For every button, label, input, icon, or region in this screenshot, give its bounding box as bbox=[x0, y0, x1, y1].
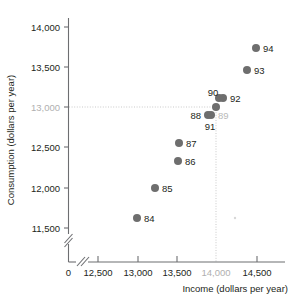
y-axis-title: Consumption (dollars per year) bbox=[5, 75, 16, 205]
y-tick-label-11500: 11,500 bbox=[32, 223, 60, 234]
x-tick-label-12500: 12,500 bbox=[83, 267, 112, 278]
chart-canvas: 14,000 13,500 13,000 12,500 12,000 11,50… bbox=[0, 0, 295, 306]
data-point-label-93: 93 bbox=[254, 65, 265, 76]
x-tick-label-13500: 13,500 bbox=[162, 267, 191, 278]
y-tick-label-13500: 13,500 bbox=[31, 62, 60, 73]
data-point-85 bbox=[151, 184, 159, 192]
data-point-86 bbox=[174, 157, 182, 165]
y-tick-label-12000: 12,000 bbox=[31, 183, 60, 194]
data-point-89 bbox=[207, 111, 215, 119]
x-tick-label-14000: 14,000 bbox=[201, 267, 230, 278]
data-point-label-91: 91 bbox=[205, 121, 216, 132]
data-point-92 bbox=[219, 94, 227, 102]
x-axis-break-mark-1 bbox=[77, 257, 85, 266]
data-points bbox=[133, 44, 260, 222]
x-tick-label-13000: 13,000 bbox=[123, 267, 152, 278]
scatter-chart: 14,000 13,500 13,000 12,500 12,000 11,50… bbox=[0, 0, 295, 306]
data-point-84 bbox=[133, 214, 141, 222]
data-point-87 bbox=[175, 139, 183, 147]
data-point-93 bbox=[243, 66, 251, 74]
data-point-label-92: 92 bbox=[230, 93, 241, 104]
y-tick-label-13000: 13,000 bbox=[31, 102, 60, 113]
data-point-label-87: 87 bbox=[186, 138, 197, 149]
data-point-label-86: 86 bbox=[185, 156, 196, 167]
data-point-label-88: 88 bbox=[190, 110, 201, 121]
x-axis-title: Income (dollars per year) bbox=[182, 283, 288, 294]
y-axis: 14,000 13,500 13,000 12,500 12,000 11,50… bbox=[31, 18, 73, 262]
data-point-label-84: 84 bbox=[144, 213, 155, 224]
x-axis-break-mark-2 bbox=[81, 257, 89, 266]
data-point-label-89: 89 bbox=[218, 110, 229, 121]
y-tick-label-12500: 12,500 bbox=[31, 142, 60, 153]
y-tick-label-14000: 14,000 bbox=[31, 22, 60, 33]
y-axis-break-mark-1 bbox=[65, 234, 73, 243]
reference-lines bbox=[69, 107, 216, 262]
data-point-label-85: 85 bbox=[162, 183, 173, 194]
x-tick-label-14500: 14,500 bbox=[242, 267, 271, 278]
data-point-label-94: 94 bbox=[263, 43, 274, 54]
stray-speck bbox=[234, 217, 236, 219]
data-point-labels: 84 85 86 87 88 89 90 91 92 93 94 bbox=[144, 43, 274, 224]
x-axis: 0 12,500 13,000 13,500 14,000 14,500 bbox=[66, 256, 285, 278]
data-point-94 bbox=[252, 44, 260, 52]
data-point-label-90: 90 bbox=[208, 87, 219, 98]
x-tick-label-0: 0 bbox=[66, 267, 71, 278]
